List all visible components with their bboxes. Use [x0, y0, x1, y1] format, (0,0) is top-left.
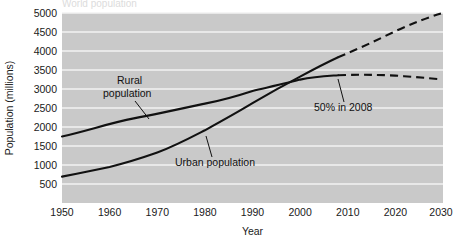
x-axis-tick-labels: 1950 1960 1970 1980 1990 2000 2010 2020 …: [50, 206, 453, 218]
x-axis-title: Year: [242, 225, 264, 237]
rural-annotation-line1: Rural: [117, 74, 142, 86]
y-tick-1500: 1500: [34, 140, 58, 152]
chart-figure: World population 5000 4500 4000 3500 300…: [0, 0, 463, 245]
x-tick-1970: 1970: [146, 206, 170, 218]
x-tick-1960: 1960: [98, 206, 122, 218]
x-tick-2020: 2020: [384, 206, 408, 218]
crossover-annotation-label: 50% in 2008: [314, 101, 373, 113]
y-axis-title: Population (millions): [3, 61, 15, 156]
x-tick-2010: 2010: [336, 206, 360, 218]
y-tick-4000: 4000: [34, 45, 58, 57]
urban-annotation-label: Urban population: [175, 156, 255, 168]
y-tick-3000: 3000: [34, 83, 58, 95]
y-tick-3500: 3500: [34, 64, 58, 76]
y-tick-2500: 2500: [34, 102, 58, 114]
x-tick-1950: 1950: [50, 206, 74, 218]
rural-annotation-line2: population: [103, 87, 152, 99]
x-tick-2000: 2000: [288, 206, 312, 218]
population-line-chart: World population 5000 4500 4000 3500 300…: [0, 0, 463, 245]
y-tick-1000: 1000: [34, 159, 58, 171]
y-tick-5000: 5000: [34, 7, 58, 19]
x-tick-1980: 1980: [193, 206, 217, 218]
y-axis-tick-labels: 5000 4500 4000 3500 3000 2500 2000 1500 …: [34, 7, 58, 190]
x-tick-1990: 1990: [241, 206, 265, 218]
y-tick-2000: 2000: [34, 121, 58, 133]
y-tick-500: 500: [39, 178, 57, 190]
clipped-title-text: World population: [62, 0, 137, 9]
y-tick-4500: 4500: [34, 26, 58, 38]
x-tick-2030: 2030: [429, 206, 453, 218]
